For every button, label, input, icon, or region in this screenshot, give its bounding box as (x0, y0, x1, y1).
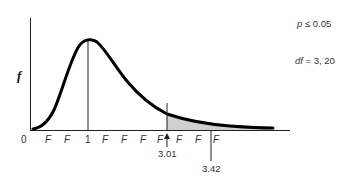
x-tick-f: F (45, 134, 52, 145)
critical-value-label-3-01: 3.01 (158, 148, 177, 159)
x-tick-f: F (64, 134, 71, 145)
critical-value-label-3-42: 3.42 (202, 163, 221, 174)
arrow-up-icon (164, 133, 170, 139)
y-axis-label: f (17, 68, 23, 83)
x-tick-f: F (121, 134, 128, 145)
x-tick-f: F (195, 134, 202, 145)
x-tick-1: 1 (85, 134, 91, 145)
density-curve (33, 40, 273, 129)
x-tick-f: F (176, 134, 183, 145)
x-tick-f: F (157, 134, 164, 145)
df-note: df = 3, 20 (295, 55, 335, 66)
x-tick-0: 0 (21, 134, 27, 145)
x-tick-f: F (140, 134, 147, 145)
x-tick-f: F (213, 134, 220, 145)
f-distribution-chart: f 0 F F 1 F F F F F F F 3.01 3.42 p ≤ 0.… (0, 0, 358, 184)
x-tick-f: F (102, 134, 109, 145)
p-value-note: p ≤ 0.05 (296, 18, 331, 29)
